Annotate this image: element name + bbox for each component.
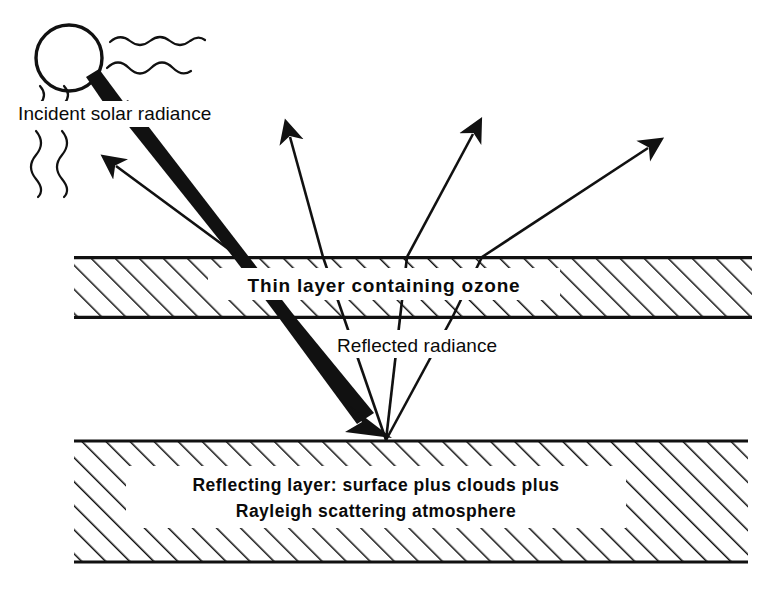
incident-solar-radiance-label: Incident solar radiance <box>18 103 211 124</box>
upward-arrow-2 <box>407 134 473 257</box>
reflecting-layer-label-line2: Rayleigh scattering atmosphere <box>236 501 517 521</box>
reflecting-layer-label-line1: Reflecting layer: surface plus clouds pl… <box>192 475 559 495</box>
upward-arrow-1 <box>290 137 323 257</box>
diagram-canvas: Thin layer containing ozone Reflected ra… <box>0 0 778 589</box>
upward-arrow-group <box>290 134 648 257</box>
ozone-radiative-transfer-diagram: Thin layer containing ozone Reflected ra… <box>0 0 778 589</box>
reflected-radiance-label: Reflected radiance <box>337 335 497 356</box>
sun-wavy-ray-6 <box>57 131 67 197</box>
ozone-layer-label: Thin layer containing ozone <box>248 275 521 296</box>
upward-arrow-3 <box>482 148 648 257</box>
sun-wavy-ray-2 <box>107 63 191 74</box>
sun-wavy-ray-5 <box>31 131 41 197</box>
sun-wavy-ray-1 <box>110 37 205 45</box>
